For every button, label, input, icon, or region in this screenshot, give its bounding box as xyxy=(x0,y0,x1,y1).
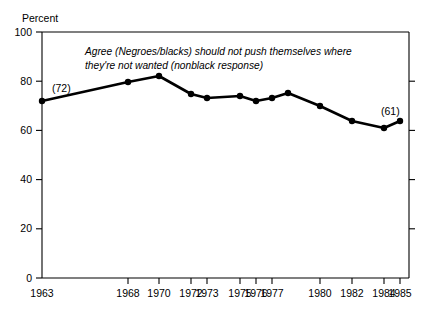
x-tick-label: 1982 xyxy=(340,287,364,299)
data-point-marker xyxy=(381,125,387,131)
data-point-marker xyxy=(125,79,131,85)
data-point-marker xyxy=(188,91,194,97)
data-point-value-label: (61) xyxy=(381,105,400,117)
x-tick-label: 1973 xyxy=(195,287,219,299)
data-point-value-label: (72) xyxy=(52,82,71,94)
data-point-marker xyxy=(204,95,210,101)
y-tick-label: 80 xyxy=(20,75,32,87)
data-point-marker xyxy=(269,95,275,101)
annotation-line-2: they're not wanted (nonblack response) xyxy=(85,60,263,71)
data-point-marker xyxy=(156,73,162,79)
y-tick-label: 0 xyxy=(26,272,32,284)
x-tick-label: 1970 xyxy=(147,287,171,299)
y-tick-label: 40 xyxy=(20,173,32,185)
data-point-marker xyxy=(253,98,259,104)
x-tick-label: 1977 xyxy=(260,287,284,299)
data-point-marker xyxy=(317,103,323,109)
y-axis-unit-label: Percent xyxy=(22,12,58,24)
x-tick-label: 1968 xyxy=(116,287,140,299)
data-point-marker xyxy=(237,93,243,99)
chart-container: Percent 020406080100 1963196819701972197… xyxy=(0,0,444,311)
y-tick-label: 60 xyxy=(20,124,32,136)
annotation-line-1: Agree (Negroes/blacks) should not push t… xyxy=(84,46,352,57)
data-point-marker xyxy=(349,118,355,124)
percent-over-time-line-chart: Percent 020406080100 1963196819701972197… xyxy=(0,0,444,311)
x-tick-label: 1963 xyxy=(30,287,54,299)
x-tick-label: 1985 xyxy=(388,287,412,299)
data-point-marker xyxy=(285,90,291,96)
y-tick-label: 20 xyxy=(20,222,32,234)
x-tick-label: 1980 xyxy=(308,287,332,299)
data-point-marker xyxy=(397,118,403,124)
data-point-marker xyxy=(39,98,45,104)
y-tick-label: 100 xyxy=(14,26,32,38)
